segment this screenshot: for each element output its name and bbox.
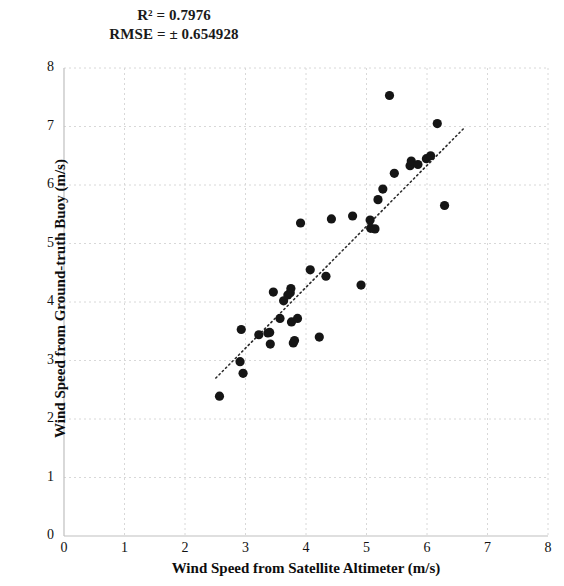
data-point (366, 216, 375, 225)
data-points (215, 91, 449, 401)
data-point (433, 119, 442, 128)
x-tick-label: 2 (175, 540, 195, 556)
grid-lines (64, 68, 548, 536)
data-point (269, 287, 278, 296)
data-point (238, 369, 247, 378)
x-tick-label: 1 (115, 540, 135, 556)
data-point (440, 201, 449, 210)
data-point (327, 214, 336, 223)
data-point (265, 328, 274, 337)
data-point (286, 284, 295, 293)
data-point (413, 160, 422, 169)
x-tick-label: 6 (417, 540, 437, 556)
x-tick-label: 0 (54, 540, 74, 556)
data-point (315, 333, 324, 342)
data-point (266, 340, 275, 349)
plot-canvas (0, 0, 564, 586)
data-point (275, 314, 284, 323)
data-point (390, 169, 399, 178)
data-point (254, 330, 263, 339)
trend-line-segment (216, 128, 465, 378)
x-axis-title: Wind Speed from Satellite Altimeter (m/s… (64, 560, 548, 577)
data-point (385, 91, 394, 100)
data-point (235, 357, 244, 366)
data-point (378, 184, 387, 193)
data-point (296, 218, 305, 227)
data-point (426, 151, 435, 160)
x-tick-label: 5 (357, 540, 377, 556)
y-axis-title: Wind Speed from Ground-truth Buoy (m/s) (52, 64, 69, 534)
x-tick-label: 3 (236, 540, 256, 556)
data-point (373, 195, 382, 204)
data-point (370, 224, 379, 233)
data-point (215, 392, 224, 401)
data-point (237, 325, 246, 334)
data-point (293, 314, 302, 323)
data-point (348, 211, 357, 220)
data-point (356, 280, 365, 289)
x-tick-label: 4 (296, 540, 316, 556)
data-point (290, 336, 299, 345)
data-point (306, 265, 315, 274)
x-tick-label: 7 (478, 540, 498, 556)
trend-line (216, 128, 465, 378)
data-point (321, 272, 330, 281)
scatter-plot-figure: R² = 0.7976 RMSE = ± 0.654928 012345678 … (0, 0, 564, 586)
x-tick-label: 8 (538, 540, 558, 556)
